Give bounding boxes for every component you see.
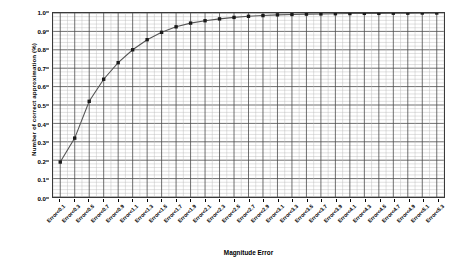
y-tick-label: 0.4 [37, 120, 46, 127]
y-tick-label: 0.0 [37, 195, 46, 202]
x-tick-mark [365, 199, 366, 202]
data-point-marker [392, 13, 395, 15]
data-point-marker [276, 13, 279, 16]
x-axis-ticks: Error<0.1Error<0.3Error<0.5Error<0.7Erro… [52, 199, 445, 247]
y-tick-mark [46, 30, 49, 31]
data-point-marker [174, 25, 177, 28]
x-tick-mark [423, 199, 424, 202]
data-point-marker [247, 15, 250, 18]
x-tick-mark [350, 199, 351, 202]
data-point-marker [305, 13, 308, 16]
x-tick-mark [88, 199, 89, 202]
x-tick-mark [249, 199, 250, 202]
data-point-marker [203, 19, 206, 22]
x-tick-mark [438, 199, 439, 202]
y-tick-mark [46, 160, 49, 161]
x-tick-mark [307, 199, 308, 202]
series-line [60, 13, 437, 162]
x-tick-mark [292, 199, 293, 202]
x-tick-mark [278, 199, 279, 202]
x-tick-mark [147, 199, 148, 202]
x-tick-mark [118, 199, 119, 202]
y-tick-mark [46, 142, 49, 143]
data-point-marker [348, 13, 351, 15]
y-tick-mark [46, 12, 49, 13]
x-tick-mark [205, 199, 206, 202]
data-point-marker [102, 78, 105, 81]
x-tick-mark [234, 199, 235, 202]
x-tick-mark [103, 199, 104, 202]
data-point-marker [319, 13, 322, 16]
y-tick-label: 0.3 [37, 139, 46, 146]
data-point-marker [261, 14, 264, 17]
data-point-marker [88, 100, 91, 103]
data-point-marker [421, 13, 424, 15]
x-tick-mark [59, 199, 60, 202]
data-series-cdf [53, 13, 444, 197]
y-tick-label: 0.8 [37, 46, 46, 53]
y-tick-label: 0.6 [37, 83, 46, 90]
data-point-marker [290, 13, 293, 16]
data-point-marker [131, 48, 134, 51]
y-tick-mark [46, 198, 49, 199]
chart-figure: Number of correct approximation (%) 0.00… [0, 0, 464, 267]
data-point-marker [377, 13, 380, 15]
x-tick-mark [161, 199, 162, 202]
x-tick-mark [394, 199, 395, 202]
x-tick-mark [380, 199, 381, 202]
x-tick-mark [409, 199, 410, 202]
y-tick-label: 0.9 [37, 27, 46, 34]
data-point-marker [116, 61, 119, 64]
y-tick-mark [46, 123, 49, 124]
x-axis-title: Magnitude Error [52, 249, 445, 256]
data-point-marker [160, 31, 163, 34]
data-point-marker [406, 13, 409, 15]
plot-area [52, 12, 445, 198]
y-axis-ticks: 0.00.10.20.30.40.50.60.70.80.91.0 [20, 12, 49, 198]
data-point-marker [435, 13, 438, 15]
y-tick-mark [46, 49, 49, 50]
y-tick-label: 0.1 [37, 176, 46, 183]
data-point-marker [232, 16, 235, 19]
data-point-marker [73, 136, 76, 139]
y-tick-mark [46, 86, 49, 87]
y-tick-mark [46, 67, 49, 68]
x-tick-mark [176, 199, 177, 202]
y-tick-mark [46, 179, 49, 180]
x-tick-mark [219, 199, 220, 202]
data-point-marker [189, 21, 192, 24]
x-tick-mark [190, 199, 191, 202]
data-point-marker [218, 17, 221, 20]
x-tick-mark [336, 199, 337, 202]
y-tick-label: 0.7 [37, 64, 46, 71]
x-tick-mark [321, 199, 322, 202]
x-tick-mark [74, 199, 75, 202]
data-point-marker [363, 13, 366, 15]
y-tick-label: 1.0 [37, 9, 46, 16]
y-tick-label: 0.5 [37, 102, 46, 109]
y-tick-label: 0.2 [37, 157, 46, 164]
x-tick-mark [132, 199, 133, 202]
y-tick-mark [46, 105, 49, 106]
data-point-marker [334, 13, 337, 15]
data-point-marker [59, 160, 62, 163]
x-tick-mark [263, 199, 264, 202]
data-point-marker [145, 38, 148, 41]
